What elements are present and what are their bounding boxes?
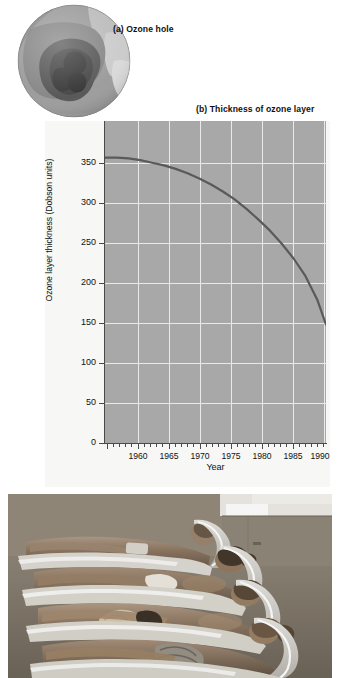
xtick-minor — [323, 444, 324, 447]
xtick-minor — [249, 444, 250, 447]
xtick-label-1970: 1970 — [185, 451, 215, 461]
ozone-hole-globe-image — [10, 3, 142, 121]
series-line — [105, 158, 326, 325]
xtick-minor — [255, 444, 256, 447]
xtick-major-1980 — [262, 444, 263, 449]
xtick-minor — [113, 444, 114, 447]
ytick-mark-350 — [99, 163, 104, 164]
xtick-minor — [119, 444, 120, 447]
ytick-label-50: 50 — [62, 397, 96, 407]
xtick-minor — [237, 444, 238, 447]
xtick-major-1970 — [200, 444, 201, 449]
xtick-minor — [218, 444, 219, 447]
xtick-label-1960: 1960 — [123, 451, 153, 461]
globe-svg — [10, 3, 142, 121]
ytick-label-200: 200 — [62, 277, 96, 287]
xtick-minor — [206, 444, 207, 447]
ozone-thickness-chart: Monthly averages for October — [45, 121, 330, 487]
xtick-label-1990: 1990 — [305, 451, 335, 461]
ytick-mark-250 — [99, 243, 104, 244]
xtick-major-1960 — [138, 444, 139, 449]
xtick-minor — [299, 444, 300, 447]
xtick-major — [107, 444, 108, 449]
ytick-mark-100 — [99, 363, 104, 364]
ytick-mark-300 — [99, 203, 104, 204]
xtick-minor — [156, 444, 157, 447]
xtick-minor — [268, 444, 269, 447]
ytick-label-0: 0 — [62, 437, 96, 447]
panel-a-label: (a) Ozone hole — [113, 24, 174, 34]
xtick-label-1965: 1965 — [154, 451, 184, 461]
ytick-label-300: 300 — [62, 197, 96, 207]
ozone-figure: (a) Ozone hole (b) Thickness of ozone la… — [0, 0, 340, 678]
ozone-thickness-curve — [105, 121, 326, 443]
panel-b-label: (b) Thickness of ozone layer — [196, 104, 314, 114]
xtick-minor — [243, 444, 244, 447]
xtick-minor — [181, 444, 182, 447]
x-axis-title: Year — [104, 462, 327, 472]
xtick-minor — [150, 444, 151, 447]
xtick-major-1965 — [169, 444, 170, 449]
ytick-label-350: 350 — [62, 157, 96, 167]
xtick-minor — [280, 444, 281, 447]
xtick-major-1985 — [293, 444, 294, 449]
plot-area — [105, 121, 326, 443]
ytick-mark-50 — [99, 403, 104, 404]
xtick-minor — [193, 444, 194, 447]
xtick-label-1980: 1980 — [247, 451, 277, 461]
ytick-mark-0 — [99, 443, 104, 444]
ytick-label-150: 150 — [62, 317, 96, 327]
xtick-minor — [286, 444, 287, 447]
xtick-minor — [162, 444, 163, 447]
ytick-label-250: 250 — [62, 237, 96, 247]
xtick-minor — [131, 444, 132, 447]
xtick-minor — [144, 444, 145, 447]
xtick-minor — [212, 444, 213, 447]
xtick-minor — [311, 444, 312, 447]
xtick-minor — [274, 444, 275, 447]
ytick-mark-150 — [99, 323, 104, 324]
xtick-minor — [317, 444, 318, 447]
ytick-mark-200 — [99, 283, 104, 284]
xtick-minor — [125, 444, 126, 447]
ytick-label-100: 100 — [62, 357, 96, 367]
xtick-minor — [224, 444, 225, 447]
xtick-label-1985: 1985 — [278, 451, 308, 461]
y-axis-line — [104, 121, 105, 444]
sunbathers-photo-svg — [8, 494, 332, 678]
sunbathers-photo — [8, 494, 332, 678]
xtick-minor — [187, 444, 188, 447]
xtick-minor — [305, 444, 306, 447]
xtick-major-1975 — [231, 444, 232, 449]
xtick-minor — [175, 444, 176, 447]
y-axis-title: Ozone layer thickness (Dobson units) — [44, 105, 54, 355]
xtick-label-1975: 1975 — [216, 451, 246, 461]
